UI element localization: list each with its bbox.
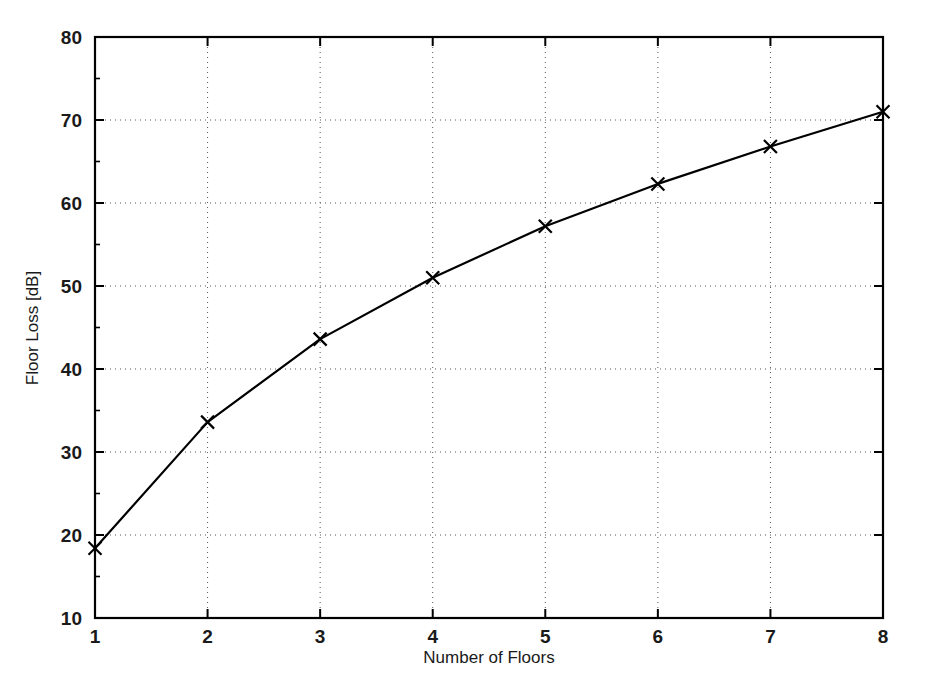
- y-tick-label: 40: [61, 359, 82, 380]
- y-tick-label: 30: [61, 442, 82, 463]
- y-tick-label: 70: [61, 110, 82, 131]
- y-axis-title: Floor Loss [dB]: [23, 271, 42, 385]
- x-tick-label: 4: [427, 626, 438, 647]
- y-tick-label: 50: [61, 276, 82, 297]
- y-tick-label: 60: [61, 193, 82, 214]
- chart-figure: 1020304050607080 12345678 Number of Floo…: [0, 0, 937, 686]
- x-tick-label: 8: [878, 626, 889, 647]
- figure-background: [0, 0, 937, 686]
- x-tick-label: 1: [90, 626, 101, 647]
- y-tick-label: 20: [61, 525, 82, 546]
- x-tick-label: 2: [202, 626, 213, 647]
- x-tick-label: 5: [540, 626, 551, 647]
- y-tick-label: 80: [61, 27, 82, 48]
- y-tick-label: 10: [61, 608, 82, 629]
- x-tick-label: 6: [653, 626, 664, 647]
- floor-loss-line-chart: 1020304050607080 12345678 Number of Floo…: [0, 0, 937, 686]
- x-axis-title: Number of Floors: [423, 648, 554, 667]
- x-tick-label: 7: [765, 626, 776, 647]
- x-tick-label: 3: [315, 626, 326, 647]
